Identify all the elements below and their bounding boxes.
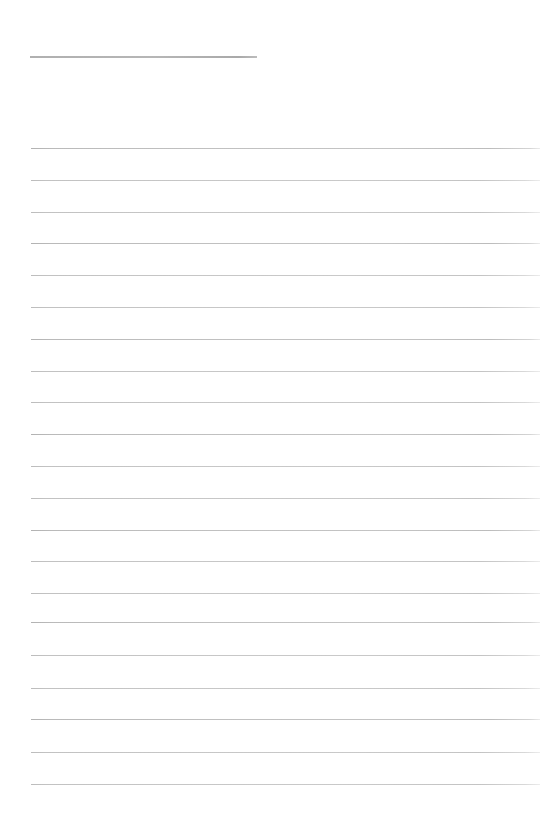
ruled-line-row[interactable] [0,159,545,181]
ruled-line-text[interactable] [31,287,540,306]
ruled-line [31,307,540,308]
ruled-line-row[interactable] [0,127,545,149]
ruled-line-row[interactable] [0,318,545,340]
ruled-line [31,622,540,623]
ruled-line-text[interactable] [31,192,540,211]
ruled-line [31,784,540,785]
document-page [0,0,545,823]
ruled-line-text[interactable] [31,764,540,783]
ruled-line-row[interactable] [0,413,545,435]
ruled-line [31,530,540,531]
ruled-line-row[interactable] [0,350,545,372]
ruled-line-text[interactable] [31,478,540,497]
ruled-line [31,275,540,276]
ruled-line-row[interactable] [0,191,545,213]
ruled-line [31,371,540,372]
ruled-line [31,402,540,403]
ruled-line-text[interactable] [31,541,540,560]
ruled-line-row[interactable] [0,634,545,656]
ruled-line-text[interactable] [31,446,540,465]
ruled-line-row[interactable] [0,601,545,623]
ruled-line-row[interactable] [0,381,545,403]
ruled-line-row[interactable] [0,445,545,467]
ruled-line-row[interactable] [0,698,545,720]
ruled-line-text[interactable] [31,573,540,592]
ruled-line-text[interactable] [31,668,540,687]
ruled-line [31,655,540,656]
ruled-line-text[interactable] [31,602,540,621]
ruled-line-text[interactable] [31,319,540,338]
ruled-line-text[interactable] [31,510,540,529]
ruled-line-row[interactable] [0,572,545,594]
ruled-line-text[interactable] [31,223,540,242]
ruled-line-row[interactable] [0,254,545,276]
ruled-line [31,688,540,689]
ruled-line-text[interactable] [31,351,540,370]
ruled-line [31,212,540,213]
ruled-line [31,243,540,244]
ruled-line-text[interactable] [31,732,540,751]
ruled-line-text[interactable] [31,635,540,654]
ruled-line-row[interactable] [0,222,545,244]
ruled-line-text[interactable] [31,160,540,179]
ruled-line-text[interactable] [31,128,540,147]
ruled-line [31,180,540,181]
ruled-line-text[interactable] [31,255,540,274]
ruled-line [31,434,540,435]
ruled-line-text[interactable] [31,382,540,401]
ruled-line [31,148,540,149]
ruled-line [31,561,540,562]
ruled-line-row[interactable] [0,509,545,531]
ruled-line-text[interactable] [31,414,540,433]
ruled-line-row[interactable] [0,540,545,562]
ruled-line-row[interactable] [0,477,545,499]
ruled-line [31,498,540,499]
ruled-lines-region [0,0,545,823]
ruled-line-row[interactable] [0,667,545,689]
ruled-line [31,339,540,340]
ruled-line-row[interactable] [0,763,545,785]
ruled-line-text[interactable] [31,699,540,718]
ruled-line [31,752,540,753]
ruled-line-row[interactable] [0,286,545,308]
ruled-line [31,719,540,720]
ruled-line-row[interactable] [0,731,545,753]
ruled-line [31,466,540,467]
ruled-line [31,593,540,594]
